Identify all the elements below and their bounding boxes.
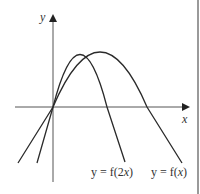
x-axis-label: x [182, 113, 187, 125]
label-prefix: y = f(2 [91, 165, 124, 179]
label-suffix: ) [129, 165, 133, 179]
y-axis-label-text: y [40, 10, 45, 24]
function-graph-diagram: y x y = f(2x) y = f(x) [0, 0, 200, 194]
curve-label-f-of-x: y = f(x) [151, 166, 187, 178]
y-axis-label: y [40, 11, 45, 23]
curve-f-of-2x [37, 55, 125, 164]
label-prefix: y = f( [151, 165, 178, 179]
frame-right-border [197, 0, 199, 194]
x-axis-label-text: x [182, 112, 187, 126]
curve-label-f-of-2x: y = f(2x) [91, 166, 133, 178]
label-suffix: ) [183, 165, 187, 179]
